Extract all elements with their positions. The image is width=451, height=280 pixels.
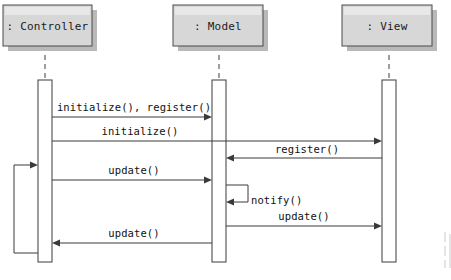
arrowhead-m6 (374, 223, 382, 230)
message-register: register() (226, 143, 382, 162)
scan-edge-artifact (444, 232, 451, 268)
arrowhead-m5 (226, 199, 234, 206)
message-label-m1: initialize(), register() (57, 101, 211, 113)
uml-sequence-diagram: initialize(), register() initialize() re… (0, 0, 451, 280)
message-label-m6: update() (278, 210, 329, 222)
message-label-m7: update() (108, 227, 159, 239)
message-update-model-view: update() (226, 210, 382, 230)
activation-bar-model (212, 80, 226, 262)
message-label-m5: notify() (251, 194, 302, 206)
message-initialize-register: initialize(), register() (52, 101, 212, 121)
arrowhead-m7 (52, 240, 60, 247)
arrowhead-m2 (374, 138, 382, 145)
message-label-m4: update() (108, 164, 159, 176)
model-label: : Model (194, 20, 242, 33)
arrowhead-m1 (204, 114, 212, 121)
arrowhead-m4 (204, 177, 212, 184)
message-notify-self: notify() (226, 185, 302, 206)
controller-box-highlight (5, 7, 90, 15)
message-update-model-controller: update() (52, 227, 212, 247)
lifelines-group (45, 46, 389, 82)
activation-bar-controller (38, 80, 52, 262)
sequence-diagram-canvas: initialize(), register() initialize() re… (0, 0, 451, 280)
view-box-highlight (344, 7, 430, 15)
participant-view: : View (342, 5, 437, 51)
participant-controller: : Controller (3, 5, 97, 51)
participant-model: : Model (173, 5, 268, 51)
controller-label: : Controller (7, 20, 89, 33)
message-label-m2: initialize() (101, 125, 178, 137)
message-update-controller-model: update() (52, 164, 212, 184)
arrowhead-controller-self (30, 162, 38, 169)
arrowhead-m3 (226, 155, 234, 162)
view-label: : View (367, 20, 408, 33)
model-box-highlight (175, 7, 261, 15)
message-controller-self-loop (14, 162, 38, 254)
activation-bar-view (382, 80, 396, 262)
message-label-m3: register() (275, 143, 339, 155)
